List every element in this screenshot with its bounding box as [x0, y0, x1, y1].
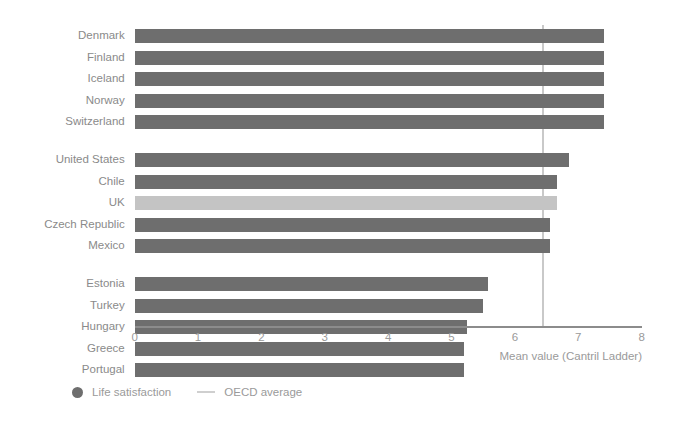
- legend-label-life-satisfaction: Life satisfaction: [92, 386, 171, 398]
- x-axis-line: [135, 326, 642, 328]
- bar-united-states[interactable]: [135, 153, 570, 167]
- x-tick-6: 6: [512, 332, 518, 344]
- x-tick-3: 3: [322, 332, 328, 344]
- category-label-iceland: Iceland: [88, 74, 125, 86]
- bar-row: Chile: [135, 175, 642, 189]
- life-satisfaction-bar-chart: DenmarkFinlandIcelandNorwaySwitzerlandUn…: [0, 0, 676, 423]
- bar-greece[interactable]: [135, 342, 465, 356]
- category-label-greece: Greece: [87, 343, 125, 355]
- x-tick-4: 4: [385, 332, 391, 344]
- circle-marker-icon: [72, 387, 83, 398]
- bar-norway[interactable]: [135, 94, 605, 108]
- line-marker-icon: [197, 391, 215, 393]
- bar-estonia[interactable]: [135, 277, 489, 291]
- category-label-united-states: United States: [56, 155, 125, 167]
- category-label-mexico: Mexico: [88, 241, 124, 253]
- bar-row: Mexico: [135, 239, 642, 253]
- bar-row: Finland: [135, 51, 642, 65]
- bar-czech-republic[interactable]: [135, 218, 550, 232]
- bar-row: UK: [135, 196, 642, 210]
- bar-mexico[interactable]: [135, 239, 550, 253]
- bar-portugal[interactable]: [135, 363, 465, 377]
- category-label-finland: Finland: [87, 52, 125, 64]
- x-axis-title: Mean value (Cantril Ladder): [499, 350, 642, 362]
- legend-label-oecd-average: OECD average: [224, 386, 302, 398]
- x-tick-7: 7: [575, 332, 581, 344]
- chart-legend: Life satisfaction OECD average: [72, 386, 302, 398]
- legend-item-oecd-average: OECD average: [197, 386, 302, 398]
- bar-row: Portugal: [135, 363, 642, 377]
- bar-row: Norway: [135, 94, 642, 108]
- x-tick-0: 0: [131, 332, 137, 344]
- bar-row: Switzerland: [135, 115, 642, 129]
- bar-finland[interactable]: [135, 51, 605, 65]
- bar-row: Estonia: [135, 277, 642, 291]
- x-tick-8: 8: [638, 332, 644, 344]
- plot-area: DenmarkFinlandIcelandNorwaySwitzerlandUn…: [135, 25, 642, 328]
- legend-item-life-satisfaction: Life satisfaction: [72, 386, 171, 398]
- bar-row: United States: [135, 153, 642, 167]
- bar-row: Turkey: [135, 299, 642, 313]
- bar-turkey[interactable]: [135, 299, 484, 313]
- category-label-switzerland: Switzerland: [65, 117, 124, 129]
- category-label-portugal: Portugal: [82, 365, 125, 377]
- category-label-norway: Norway: [86, 95, 125, 107]
- bar-denmark[interactable]: [135, 29, 605, 43]
- category-label-chile: Chile: [98, 176, 124, 188]
- bar-iceland[interactable]: [135, 72, 605, 86]
- category-label-estonia: Estonia: [86, 279, 124, 291]
- category-label-turkey: Turkey: [90, 300, 125, 312]
- bar-chile[interactable]: [135, 175, 558, 189]
- category-label-denmark: Denmark: [78, 31, 125, 43]
- category-label-hungary: Hungary: [81, 322, 124, 334]
- category-label-uk: UK: [109, 198, 125, 210]
- bar-row: Czech Republic: [135, 218, 642, 232]
- category-label-czech-republic: Czech Republic: [44, 219, 125, 231]
- bar-row: Denmark: [135, 29, 642, 43]
- bar-uk[interactable]: [135, 196, 558, 210]
- x-tick-1: 1: [195, 332, 201, 344]
- bar-row: Iceland: [135, 72, 642, 86]
- bar-switzerland[interactable]: [135, 115, 605, 129]
- x-tick-2: 2: [258, 332, 264, 344]
- x-tick-5: 5: [448, 332, 454, 344]
